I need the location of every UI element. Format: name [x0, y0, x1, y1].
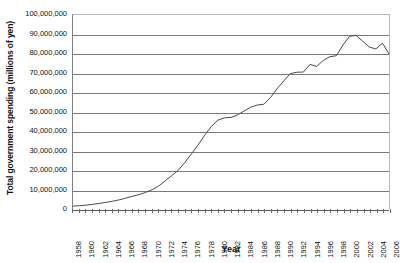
y-tick-label: 40,000,000 [29, 127, 67, 135]
y-axis-title: Total government spending (millions of y… [0, 0, 20, 215]
y-tick-label: 80,000,000 [29, 49, 67, 57]
y-tick-label: 60,000,000 [29, 88, 67, 96]
y-tick-label: 10,000,000 [29, 186, 67, 194]
y-tick-label: 100,000,000 [25, 10, 67, 18]
y-tick-label: 70,000,000 [29, 69, 67, 77]
y-tick-label: 20,000,000 [29, 166, 67, 174]
line-chart: Total government spending (millions of y… [0, 0, 404, 263]
series-line [73, 15, 389, 209]
y-tick-label: 50,000,000 [29, 108, 67, 116]
y-tick-label: 90,000,000 [29, 30, 67, 38]
x-tick-label: 2006 [393, 241, 401, 258]
series-polyline [73, 35, 389, 206]
y-axis-title-text: Total government spending (millions of y… [5, 20, 15, 194]
plot-area [72, 14, 390, 209]
y-tick-label: 0 [63, 205, 67, 213]
x-axis-title: Year [72, 244, 390, 254]
y-tick-label: 30,000,000 [29, 147, 67, 155]
